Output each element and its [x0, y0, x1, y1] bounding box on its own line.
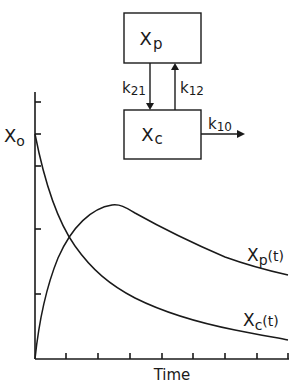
xc-curve-label: Xc(t) [243, 310, 279, 333]
k21-arrowhead-icon [146, 103, 154, 110]
central-label: Xc [141, 124, 163, 148]
xp-curve-label: Xp(t) [247, 245, 284, 268]
pharmacokinetic-figure: Xp Xc k21 k12 k10 Xo Xp(t) Xc(t) Time [0, 0, 303, 390]
peripheral-label: Xp [140, 28, 163, 53]
xp-curve [35, 205, 288, 359]
k10-arrowhead-icon [237, 130, 245, 138]
k10-label: k10 [208, 115, 232, 134]
k12-arrowhead-icon [171, 63, 179, 70]
k12-label: k12 [180, 79, 204, 98]
x-axis-label: Time [153, 366, 191, 384]
y-axis-x0-label: Xo [4, 125, 25, 149]
peripheral-compartment-box [124, 13, 201, 63]
k21-label: k21 [122, 79, 146, 98]
